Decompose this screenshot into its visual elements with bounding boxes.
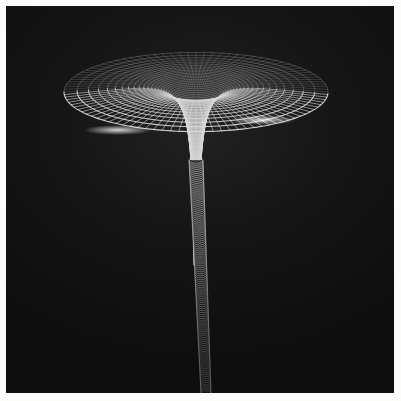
figure-container xyxy=(0,0,401,401)
plot-area xyxy=(6,6,394,393)
wireframe-mesh xyxy=(6,6,394,393)
